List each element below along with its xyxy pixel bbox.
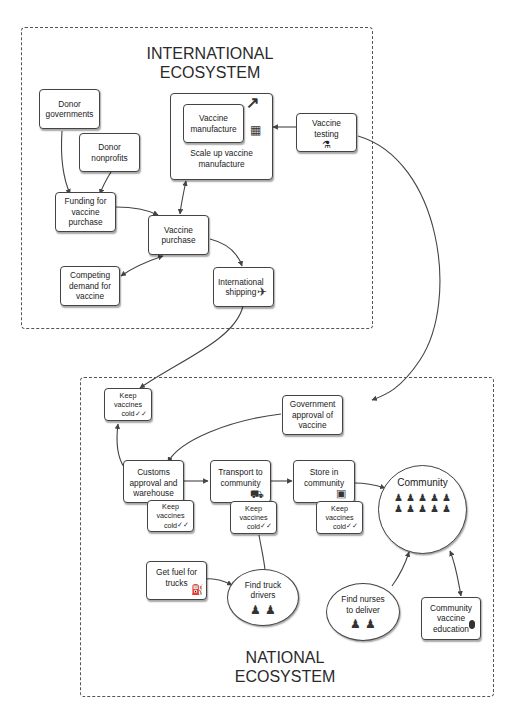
node-label: Competing demand for vaccine: [69, 270, 111, 302]
drivers-people-icon: ♟♟: [250, 605, 276, 616]
cold-check-icon: ✓✓: [177, 520, 189, 530]
node-find-nurses[interactable]: Find nurses to deliver ♟♟: [326, 583, 400, 641]
node-label: Customs approval and warehouse: [130, 467, 178, 499]
node-donor-governments[interactable]: Donor governments: [39, 89, 100, 129]
international-ecosystem-title: INTERNATIONAL ECOSYSTEM: [120, 44, 300, 82]
node-label: Find nurses to deliver: [341, 594, 384, 615]
node-label: Community: [397, 478, 448, 489]
node-label: Funding for vaccine purchase: [65, 196, 107, 228]
node-label: Find truck drivers: [245, 580, 281, 601]
node-vaccine-purchase[interactable]: Vaccine purchase: [148, 215, 209, 255]
node-label: Scale up vaccine manufacture: [190, 148, 253, 169]
node-government-approval[interactable]: Government approval of vaccine: [282, 395, 343, 435]
airplane-icon: ✈: [257, 287, 267, 297]
store-icon: ▣: [336, 488, 346, 498]
cold-check-icon: ✓✓: [260, 521, 272, 531]
node-label: Government approval of vaccine: [290, 399, 336, 431]
node-label: Community vaccine education: [430, 603, 472, 635]
national-ecosystem-title: NATIONAL ECOSYSTEM: [205, 648, 365, 686]
node-label: Vaccine purchase: [161, 225, 195, 246]
node-funding-for-vaccine-purchase[interactable]: Funding for vaccine purchase: [55, 192, 116, 232]
node-find-truck-drivers[interactable]: Find truck drivers ♟♟: [227, 569, 299, 626]
node-label: Donor nonprofits: [91, 142, 127, 163]
node-vaccine-manufacture[interactable]: Vaccine manufacture: [183, 104, 244, 143]
node-vaccine-testing[interactable]: Vaccine testing ⚗: [296, 113, 357, 152]
node-label: Transport to community: [218, 467, 262, 488]
fuel-pump-icon: ⛽: [191, 585, 203, 595]
cold-check-icon: ✓✓: [135, 409, 147, 419]
node-label: Store in community: [304, 467, 344, 488]
node-label: Donor governments: [46, 99, 94, 120]
growth-arrow-icon: ↗: [246, 98, 259, 108]
node-competing-demand[interactable]: Competing demand for vaccine: [60, 266, 120, 306]
microphone-icon: [469, 620, 475, 629]
node-community[interactable]: Community ♟♟♟♟♟♟♟♟♟♟: [378, 465, 467, 554]
nurses-people-icon: ♟♟: [350, 619, 376, 630]
node-label: Vaccine testing: [312, 118, 341, 139]
community-people-icon: ♟♟♟♟♟♟♟♟♟♟: [393, 493, 453, 515]
lab-testing-icon: ⚗: [322, 140, 331, 151]
node-customs-approval-warehouse[interactable]: Customs approval and warehouse: [123, 460, 184, 503]
node-label: Vaccine manufacture: [190, 113, 236, 134]
cold-check-icon: ✓✓: [346, 521, 358, 531]
factory-icon: ▦: [250, 125, 261, 135]
node-community-vaccine-education[interactable]: Community vaccine education: [421, 597, 481, 640]
truck-icon: ⛟: [250, 489, 264, 499]
node-donor-nonprofits[interactable]: Donor nonprofits: [79, 133, 140, 172]
